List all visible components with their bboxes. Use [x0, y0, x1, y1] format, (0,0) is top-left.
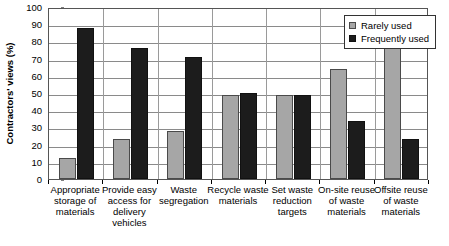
y-tick-label: 30: [16, 124, 42, 134]
bar-rarely-used: [167, 131, 184, 179]
x-axis-category-labels: Appropriate storage of materialsProvide …: [48, 184, 428, 244]
y-axis-tick-labels: 0102030405060708090100: [16, 0, 42, 186]
x-axis-label: Set waste reduction targets: [261, 184, 323, 217]
x-axis-label: On-site reuse of waste materials: [315, 184, 377, 217]
gridline: [49, 78, 427, 79]
x-tick-mark: [428, 180, 429, 184]
y-tick-label: 70: [16, 55, 42, 65]
legend-label: Frequently used: [361, 34, 429, 44]
bar-rarely-used: [384, 48, 401, 179]
bar-frequently-used: [77, 28, 94, 179]
y-tick-label: 90: [16, 20, 42, 30]
legend-item: Rarely used: [349, 19, 429, 32]
bar-rarely-used: [59, 158, 76, 179]
bar-frequently-used: [131, 48, 148, 179]
category-divider: [103, 9, 104, 179]
x-axis-label: Appropriate storage of materials: [44, 184, 106, 217]
chart-legend: Rarely usedFrequently used: [344, 15, 436, 49]
bar-frequently-used: [294, 95, 311, 179]
y-tick-label: 50: [16, 89, 42, 99]
bar-chart: Contractors' views (%) 01020304050607080…: [0, 0, 449, 246]
legend-item: Frequently used: [349, 32, 429, 45]
category-divider: [320, 9, 321, 179]
bar-frequently-used: [402, 139, 419, 179]
y-axis-title-text: Contractors' views (%): [4, 42, 15, 144]
category-divider: [158, 9, 159, 179]
bar-rarely-used: [276, 95, 293, 179]
bar-frequently-used: [240, 93, 257, 179]
y-tick-label: 80: [16, 38, 42, 48]
y-tick-label: 40: [16, 106, 42, 116]
y-tick-label: 20: [16, 141, 42, 151]
y-tick-label: 60: [16, 72, 42, 82]
legend-swatch-frequently: [349, 35, 356, 42]
bar-frequently-used: [348, 121, 365, 179]
bar-rarely-used: [330, 69, 347, 179]
y-tick-label: 100: [16, 3, 42, 13]
bar-rarely-used: [113, 139, 130, 179]
category-divider: [266, 9, 267, 179]
y-tick-label: 0: [16, 175, 42, 185]
category-divider: [212, 9, 213, 179]
gridline: [49, 61, 427, 62]
legend-label: Rarely used: [361, 21, 412, 31]
x-axis-label: Offsite reuse of waste materials: [370, 184, 432, 217]
legend-swatch-rarely: [349, 22, 356, 29]
bar-frequently-used: [185, 57, 202, 179]
x-axis-label: Waste segregation: [153, 184, 215, 206]
y-tick-label: 10: [16, 158, 42, 168]
x-axis-label: Provide easy access for delivery vehicle…: [98, 184, 160, 228]
bar-rarely-used: [222, 95, 239, 179]
x-axis-label: Recycle waste materials: [207, 184, 269, 206]
